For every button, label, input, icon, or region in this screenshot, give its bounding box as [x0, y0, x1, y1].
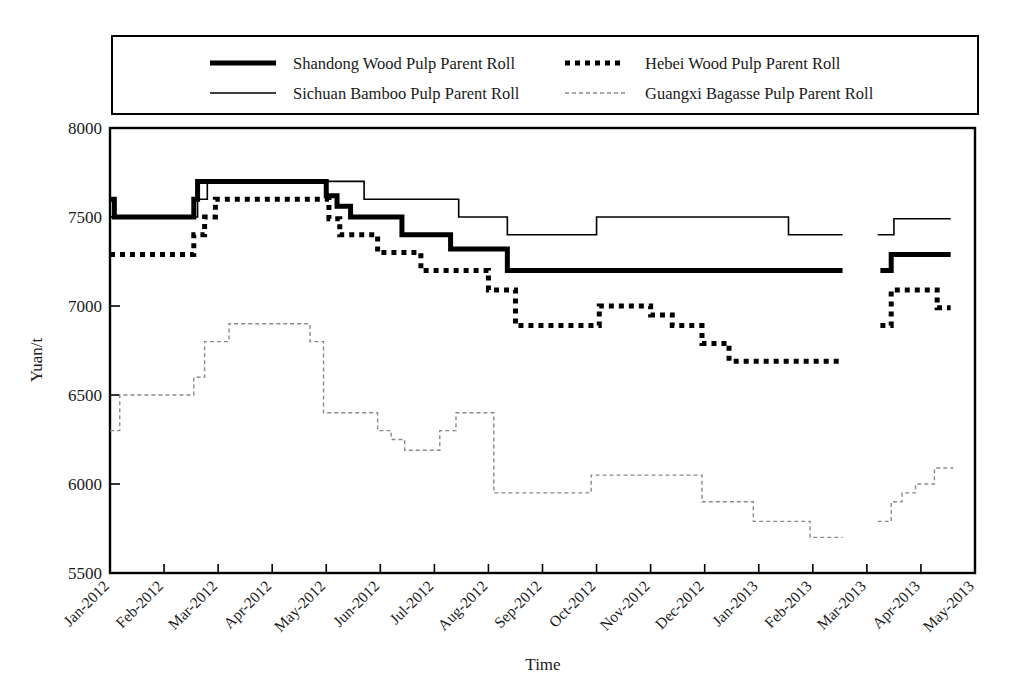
legend-label-sichuan: Sichuan Bamboo Pulp Parent Roll [293, 84, 520, 103]
chart-legend: Shandong Wood Pulp Parent Roll Hebei Woo… [112, 36, 978, 114]
price-trend-chart: Shandong Wood Pulp Parent Roll Hebei Woo… [0, 0, 1012, 700]
legend-label-guangxi: Guangxi Bagasse Pulp Parent Roll [645, 84, 874, 103]
x-tick-label-Jun-2012: Jun-2012 [330, 577, 383, 630]
x-tick-label-Dec-2012: Dec-2012 [652, 577, 707, 632]
x-tick-label-Nov-2012: Nov-2012 [596, 577, 652, 633]
x-tick-label-Apr-2013: Apr-2013 [869, 577, 924, 632]
x-tick-label-Feb-2013: Feb-2013 [761, 577, 815, 631]
x-tick-label-May-2012: May-2012 [271, 577, 329, 635]
y-tick-label-7500: 7500 [68, 208, 102, 227]
legend-label-hebei: Hebei Wood Pulp Parent Roll [645, 54, 841, 73]
x-axis-title: Time [525, 655, 560, 674]
y-axis-title: Yuan/t [27, 338, 46, 383]
x-tick-label-Feb-2012: Feb-2012 [112, 577, 166, 631]
y-tick-label-8000: 8000 [68, 119, 102, 138]
x-tick-label-Apr-2012: Apr-2012 [220, 577, 274, 631]
y-tick-label-7000: 7000 [68, 297, 102, 316]
x-tick-label-Jul-2012: Jul-2012 [386, 577, 436, 627]
y-tick-label-6500: 6500 [68, 386, 102, 405]
plot-frame [110, 128, 975, 573]
chart-figure: Shandong Wood Pulp Parent Roll Hebei Woo… [0, 0, 1012, 700]
x-axis: Jan-2012Feb-2012Mar-2012Apr-2012May-2012… [60, 564, 977, 635]
y-tick-label-6000: 6000 [68, 475, 102, 494]
x-tick-label-Jan-2012: Jan-2012 [60, 577, 112, 629]
x-tick-label-Mar-2013: Mar-2013 [813, 577, 869, 633]
x-tick-label-Sep-2012: Sep-2012 [491, 577, 545, 631]
y-axis: 8000 7500 7000 6500 6000 5500 Yuan/t [27, 119, 120, 583]
x-tick-label-Mar-2012: Mar-2012 [165, 577, 221, 633]
x-tick-label-Jan-2013: Jan-2013 [709, 577, 761, 629]
x-tick-label-Oct-2012: Oct-2012 [545, 577, 598, 630]
x-tick-label-May-2013: May-2013 [919, 577, 977, 635]
x-tick-label-Aug-2012: Aug-2012 [434, 577, 490, 633]
legend-label-shandong: Shandong Wood Pulp Parent Roll [293, 54, 515, 73]
